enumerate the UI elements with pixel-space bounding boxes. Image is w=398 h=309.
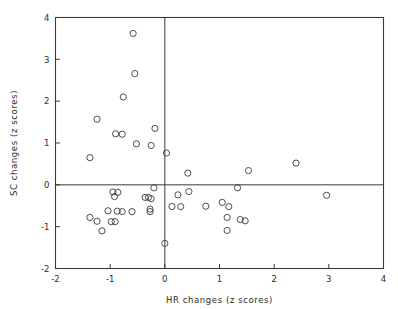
y-tick-label: 0 [44, 180, 49, 190]
y-axis-title: SC changes (z scores) [9, 90, 19, 196]
data-point [178, 203, 184, 209]
data-point [129, 209, 135, 215]
data-point [112, 219, 118, 225]
data-point [245, 168, 251, 174]
scatter-plot-figure: -2-101234-2-101234HR changes (z scores)S… [0, 0, 398, 309]
data-point [224, 214, 230, 220]
x-tick-label: 0 [162, 274, 167, 284]
data-point [293, 160, 299, 166]
data-point [151, 185, 157, 191]
x-tick-label: -1 [106, 274, 114, 284]
data-point [132, 70, 138, 76]
data-point [185, 170, 191, 176]
x-tick-label: 2 [271, 274, 276, 284]
data-point-group [87, 30, 330, 246]
data-point [152, 125, 158, 131]
data-point [94, 116, 100, 122]
data-point [224, 227, 230, 233]
data-point [130, 30, 136, 36]
data-point [119, 131, 125, 137]
x-tick-label: 3 [326, 274, 331, 284]
data-point [226, 203, 232, 209]
data-point [87, 214, 93, 220]
data-point [203, 203, 209, 209]
data-point [87, 155, 93, 161]
data-point [133, 141, 139, 147]
y-tick-label: 4 [44, 13, 49, 23]
data-point [105, 208, 111, 214]
data-point [219, 199, 225, 205]
y-tick-label: -1 [41, 222, 49, 232]
data-point [94, 218, 100, 224]
x-tick-label: -2 [51, 274, 59, 284]
data-point [99, 228, 105, 234]
y-tick-label: 1 [44, 138, 49, 148]
data-point [148, 142, 154, 148]
y-axis-title-group: SC changes (z scores) [9, 90, 19, 196]
y-tick-label: 3 [44, 55, 49, 65]
data-point [169, 203, 175, 209]
plot-canvas: -2-101234-2-101234HR changes (z scores)S… [0, 0, 398, 309]
data-point [120, 94, 126, 100]
data-point [324, 192, 330, 198]
x-tick-label: 1 [217, 274, 222, 284]
x-tick-label: 4 [381, 274, 386, 284]
data-point [113, 131, 119, 137]
data-point [175, 192, 181, 198]
y-tick-label: 2 [44, 96, 49, 106]
data-point [234, 185, 240, 191]
x-axis-title: HR changes (z scores) [166, 295, 273, 305]
y-tick-label: -2 [41, 264, 49, 274]
data-point [163, 150, 169, 156]
data-point [186, 188, 192, 194]
